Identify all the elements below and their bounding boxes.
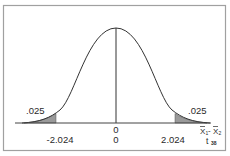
right-tail-label: .025 xyxy=(188,105,207,116)
left-tail-label: .025 xyxy=(26,105,45,116)
t-left-critical-label: -2.024 xyxy=(47,134,74,145)
svg-text:38: 38 xyxy=(211,140,217,146)
svg-text:2: 2 xyxy=(219,130,222,136)
t-distribution-chart: .025 .025 0 0 -2.024 2.024 X 1 - X 2 t 3… xyxy=(0,0,230,156)
t-right-critical-label: 2.024 xyxy=(161,134,185,145)
t-zero-label: 0 xyxy=(113,134,118,145)
svg-text:-: - xyxy=(208,126,211,135)
